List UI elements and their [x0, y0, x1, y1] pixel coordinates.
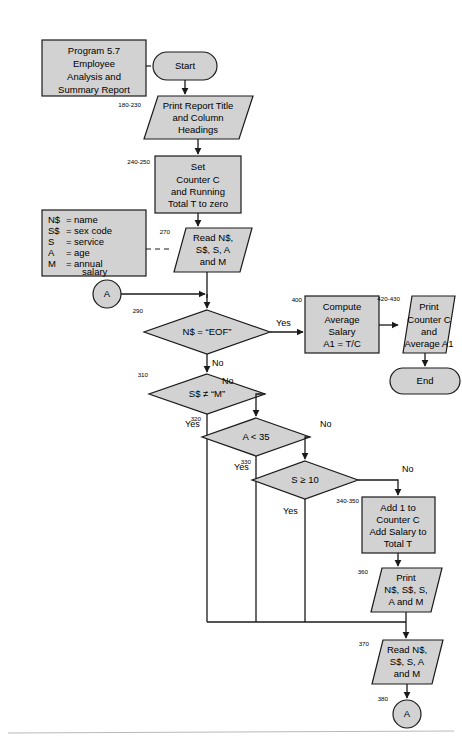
- node-decision-service: 330 S ≥ 10: [241, 458, 358, 499]
- node-decision-age-line-numbers: 320: [191, 415, 202, 422]
- legend-row-4: A = age: [48, 247, 90, 258]
- legend-meaning-2: sex code: [74, 225, 112, 236]
- node-compute-average-line-3: Salary: [329, 326, 356, 337]
- node-accumulate-line-1: Add 1 to: [380, 502, 415, 513]
- legend-row-2: S$ = sex code: [48, 225, 112, 236]
- node-compute-average-line-4: A1 = T/C: [323, 338, 361, 349]
- node-set-counters-line-numbers: 240-250: [127, 158, 150, 165]
- node-read-next-line-2: S$, S, A: [390, 656, 425, 667]
- node-accumulate-line-2: Counter C: [376, 514, 419, 525]
- legend-meaning-4: age: [74, 247, 90, 258]
- legend-equals-4: =: [66, 247, 72, 258]
- legend-box: N$ = name S$ = sex code S = service A = …: [42, 210, 146, 277]
- node-read-first-line-numbers: 270: [160, 228, 171, 235]
- node-decision-service-line-numbers: 330: [241, 458, 252, 465]
- node-decision-eof: 290 N$ = “EOF”: [133, 307, 270, 354]
- node-connector-a-in-label: A: [104, 288, 111, 299]
- legend-symbol-4: A: [48, 247, 55, 258]
- node-print-headings-line-3: Headings: [178, 124, 218, 135]
- node-print-summary-line-1: Print: [419, 301, 439, 312]
- legend-meaning-6: salary: [82, 266, 108, 277]
- node-decision-sex: 310 S$ ≠ “M”: [138, 371, 265, 414]
- node-print-headings: 180-230 Print Report Title and Column He…: [118, 96, 253, 139]
- legend-equals-5: =: [66, 258, 72, 269]
- node-print-summary-line-3: and: [421, 326, 437, 337]
- footer-divider: [8, 731, 454, 733]
- node-decision-sex-line-numbers: 310: [138, 371, 149, 378]
- node-print-detail: 360 Print N$, S$, S, A and M: [358, 568, 442, 612]
- program-label-line-3: Analysis and: [67, 71, 121, 82]
- node-set-counters: 240-250 Set Counter C and Running Total …: [127, 156, 241, 213]
- node-read-next-line-numbers: 370: [359, 640, 370, 647]
- legend-meaning-1: name: [74, 214, 98, 225]
- node-read-next-line-3: and M: [394, 668, 420, 679]
- branch-label-sex-no: No: [222, 376, 234, 386]
- legend-symbol-5: M: [48, 258, 56, 269]
- node-print-summary-line-4: Average A1: [405, 338, 454, 349]
- node-compute-average-line-1: Compute: [323, 301, 362, 312]
- node-set-counters-line-2: Counter C: [176, 174, 219, 185]
- legend-meaning-3: service: [74, 236, 104, 247]
- program-label-line-1: Program 5.7: [68, 45, 120, 56]
- node-read-first: 270 Read N$, S$, S, A and M: [160, 228, 252, 272]
- node-start-label: Start: [175, 60, 195, 71]
- node-print-summary-line-numbers: 420-430: [377, 295, 400, 302]
- legend-symbol-1: N$: [48, 214, 61, 225]
- node-connector-a-out-line-numbers: 380: [378, 695, 389, 702]
- node-print-summary-line-2: Counter C: [407, 314, 450, 325]
- node-decision-eof-line-numbers: 290: [133, 307, 144, 314]
- legend-equals-1: =: [66, 214, 72, 225]
- legend-symbol-2: S$: [48, 225, 60, 236]
- node-accumulate: 340-350 Add 1 to Counter C Add Salary to…: [336, 497, 435, 553]
- node-set-counters-line-3: and Running: [171, 186, 225, 197]
- node-print-detail-line-2: N$, S$, S,: [384, 584, 427, 595]
- node-end-label: End: [417, 375, 434, 386]
- node-decision-sex-label: S$ ≠ “M”: [189, 388, 225, 399]
- node-decision-age-label: A < 35: [242, 431, 269, 442]
- program-label-line-4: Summary Report: [58, 84, 130, 95]
- node-end: End: [390, 368, 460, 394]
- node-read-first-line-2: S$, S, A: [196, 244, 231, 255]
- node-print-detail-line-3: A and M: [389, 596, 424, 607]
- legend-equals-2: =: [66, 225, 72, 236]
- node-decision-eof-label: N$ = “EOF”: [183, 326, 232, 337]
- node-read-next-line-1: Read N$,: [387, 644, 427, 655]
- node-decision-age: 320 A < 35: [191, 415, 310, 456]
- node-print-detail-line-numbers: 360: [358, 568, 369, 575]
- branch-label-service-no: No: [402, 464, 414, 474]
- node-read-first-line-1: Read N$,: [193, 232, 233, 243]
- branch-label-service-yes: Yes: [283, 506, 298, 516]
- legend-symbol-3: S: [48, 236, 54, 247]
- node-compute-average: 400 Compute Average Salary A1 = T/C: [292, 296, 379, 353]
- flowchart-page: Program 5.7 Employee Analysis and Summar…: [0, 0, 462, 746]
- node-accumulate-line-4: Total T: [384, 538, 413, 549]
- node-accumulate-line-3: Add Salary to: [369, 526, 426, 537]
- node-read-first-line-3: and M: [200, 256, 226, 267]
- node-print-summary: 420-430 Print Counter C and Average A1: [377, 295, 455, 353]
- node-connector-a-in: A: [93, 280, 121, 308]
- branch-label-eof-no: No: [212, 358, 224, 368]
- flowchart-canvas: Program 5.7 Employee Analysis and Summar…: [0, 0, 462, 746]
- legend-row-6: salary: [82, 266, 108, 277]
- node-compute-average-line-numbers: 400: [292, 296, 303, 303]
- node-connector-a-out-label: A: [404, 708, 411, 719]
- node-print-detail-line-1: Print: [396, 572, 416, 583]
- node-compute-average-line-2: Average: [324, 314, 359, 325]
- node-start: Start: [153, 52, 217, 80]
- legend-equals-3: =: [66, 236, 72, 247]
- connector-age-no-to-decision-service: [305, 437, 310, 459]
- node-set-counters-line-1: Set: [191, 161, 206, 172]
- program-label-line-2: Employee: [73, 58, 115, 69]
- connector-service-no-to-accumulate: [358, 480, 398, 495]
- node-read-next: 370 Read N$, S$, S, A and M: [359, 640, 443, 684]
- branch-label-age-no: No: [320, 419, 332, 429]
- connector-sex-no-to-decision-age: [256, 394, 265, 416]
- program-label-box: Program 5.7 Employee Analysis and Summar…: [42, 40, 146, 96]
- node-decision-service-label: S ≥ 10: [291, 474, 318, 485]
- node-print-headings-line-1: Print Report Title: [163, 100, 234, 111]
- node-print-headings-line-numbers: 180-230: [118, 101, 141, 108]
- branch-label-eof-yes: Yes: [276, 318, 291, 328]
- node-accumulate-line-numbers: 340-350: [336, 497, 359, 504]
- node-set-counters-line-4: Total T to zero: [168, 198, 228, 209]
- node-connector-a-out: 380 A: [378, 695, 421, 728]
